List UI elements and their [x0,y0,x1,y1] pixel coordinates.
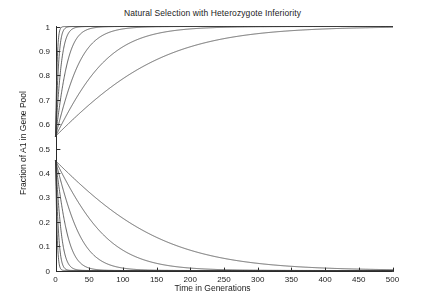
x-axis-label: Time in Generations [0,283,425,293]
y-tick-label: 0.9 [22,46,50,55]
y-tick-label: 1 [22,22,50,31]
chart-figure: Natural Selection with Heterozygote Infe… [0,0,425,300]
y-tick-label: 0 [22,266,50,275]
plot-area [0,0,425,300]
y-tick-label: 0.1 [22,242,50,251]
y-axis-label: Fraction of A1 in Gene Pool [18,63,28,223]
